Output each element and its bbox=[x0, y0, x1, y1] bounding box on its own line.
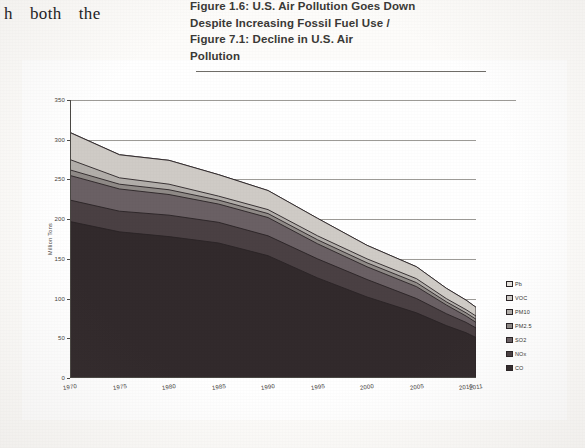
chart-legend: PbVOCPM10PM2.5SO2NOxCO bbox=[506, 278, 532, 376]
legend-label: PM10 bbox=[515, 309, 530, 315]
y-axis-tick-mark bbox=[67, 100, 70, 101]
legend-item: PM10 bbox=[506, 306, 532, 318]
body-text-fragment: hboththe bbox=[4, 4, 182, 24]
legend-swatch-icon bbox=[506, 309, 513, 316]
legend-item: PM2.5 bbox=[506, 320, 532, 332]
y-axis-tick-label: 50 bbox=[58, 335, 65, 341]
y-axis-line bbox=[70, 100, 71, 378]
legend-swatch-icon bbox=[506, 337, 513, 344]
legend-item: VOC bbox=[506, 292, 532, 304]
header-rule bbox=[196, 71, 486, 72]
legend-label: SO2 bbox=[515, 337, 526, 343]
y-axis-tick-label: 300 bbox=[54, 137, 65, 143]
legend-swatch-icon bbox=[506, 281, 513, 288]
body-word: the bbox=[79, 4, 101, 24]
body-word: both bbox=[30, 4, 62, 24]
y-axis-tick-mark bbox=[67, 378, 70, 379]
y-axis-tick-mark bbox=[67, 259, 70, 260]
legend-label: PM2.5 bbox=[515, 323, 532, 329]
body-word: h bbox=[4, 4, 13, 24]
y-axis-tick-mark bbox=[67, 140, 70, 141]
x-axis-line bbox=[70, 377, 476, 378]
y-axis-title: Million Tons bbox=[47, 223, 53, 255]
legend-swatch-icon bbox=[506, 323, 513, 330]
legend-swatch-icon bbox=[506, 295, 513, 302]
stacked-area-series bbox=[70, 100, 476, 378]
y-axis-tick-label: 200 bbox=[54, 216, 65, 222]
legend-label: CO bbox=[515, 365, 524, 371]
air-pollution-stacked-area-chart: 050100150200250300350 197019751980198519… bbox=[22, 60, 567, 420]
legend-swatch-icon bbox=[506, 351, 513, 358]
legend-label: VOC bbox=[515, 295, 527, 301]
y-axis-tick-label: 250 bbox=[54, 176, 65, 182]
y-axis-tick-label: 100 bbox=[54, 296, 65, 302]
legend-label: NOx bbox=[515, 351, 526, 357]
caption-line: Figure 1.6: U.S. Air Pollution Goes Down bbox=[190, 0, 440, 15]
y-axis-tick-mark bbox=[67, 219, 70, 220]
y-axis-tick-mark bbox=[67, 299, 70, 300]
legend-item: CO bbox=[506, 362, 532, 374]
legend-swatch-icon bbox=[506, 365, 513, 372]
y-axis-tick-mark bbox=[67, 338, 70, 339]
legend-item: Pb bbox=[506, 278, 532, 290]
y-axis-tick-label: 0 bbox=[61, 375, 65, 381]
legend-item: NOx bbox=[506, 348, 532, 360]
plot-area: 050100150200250300350 197019751980198519… bbox=[70, 100, 476, 378]
caption-line: Despite Increasing Fossil Fuel Use / bbox=[190, 15, 440, 32]
figure-caption: Figure 1.6: U.S. Air Pollution Goes Down… bbox=[190, 0, 440, 64]
legend-label: Pb bbox=[515, 281, 522, 287]
y-axis-tick-label: 150 bbox=[54, 256, 65, 262]
y-axis-tick-label: 350 bbox=[54, 97, 65, 103]
y-axis-tick-mark bbox=[67, 179, 70, 180]
caption-line: Figure 7.1: Decline in U.S. Air bbox=[190, 31, 440, 48]
legend-item: SO2 bbox=[506, 334, 532, 346]
